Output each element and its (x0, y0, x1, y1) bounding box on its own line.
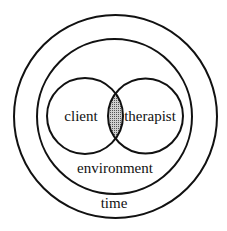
client-label: client (64, 108, 98, 124)
therapist-label: therapist (124, 108, 176, 124)
diagram-canvas: client therapist environment time (0, 0, 227, 231)
time-label: time (101, 195, 128, 211)
environment-label: environment (77, 160, 154, 176)
